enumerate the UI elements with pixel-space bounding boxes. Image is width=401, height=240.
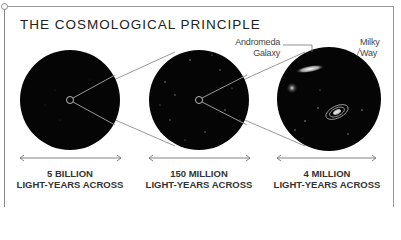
andromeda-leader — [283, 45, 312, 52]
milky-way-label: Milky Way — [360, 37, 390, 59]
scale-label-2: 150 MILLION LIGHT-YEARS ACROSS — [144, 168, 254, 190]
universe-circle-3 — [277, 47, 381, 151]
scale-arrows — [20, 155, 376, 161]
universe-circle-1 — [20, 50, 120, 150]
scale-label-3: 4 MILLION LIGHT-YEARS ACROSS — [272, 168, 382, 190]
companion-galaxy — [286, 82, 298, 94]
scale-label-1: 5 BILLION LIGHT-YEARS ACROSS — [15, 168, 125, 190]
andromeda-label: Andromeda Galaxy — [228, 37, 280, 59]
universe-circle-2 — [149, 50, 249, 150]
